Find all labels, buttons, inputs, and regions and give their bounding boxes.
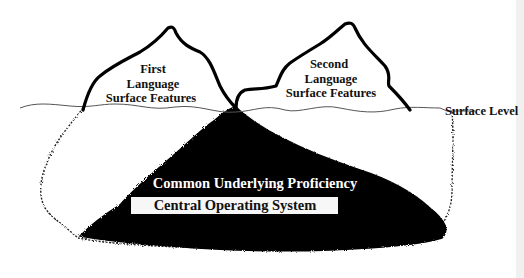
iceberg-diagram: First Language Surface Features Second L… (0, 0, 524, 278)
central-operating-system-label: Central Operating System (154, 197, 317, 213)
second-peak-label: Second Language Surface Features (286, 57, 377, 100)
first-peak-line-2: Language (127, 77, 180, 91)
second-peak-line-3: Surface Features (286, 86, 377, 100)
first-peak-line-3: Surface Features (106, 91, 197, 105)
second-peak-line-2: Language (305, 72, 358, 86)
surface-level-label: Surface Level (445, 104, 519, 118)
first-peak-line-1: First (140, 62, 167, 76)
second-peak-line-1: Second (310, 57, 348, 71)
first-peak-label: First Language Surface Features (106, 62, 197, 105)
common-underlying-proficiency-label: Common Underlying Proficiency (153, 175, 358, 191)
